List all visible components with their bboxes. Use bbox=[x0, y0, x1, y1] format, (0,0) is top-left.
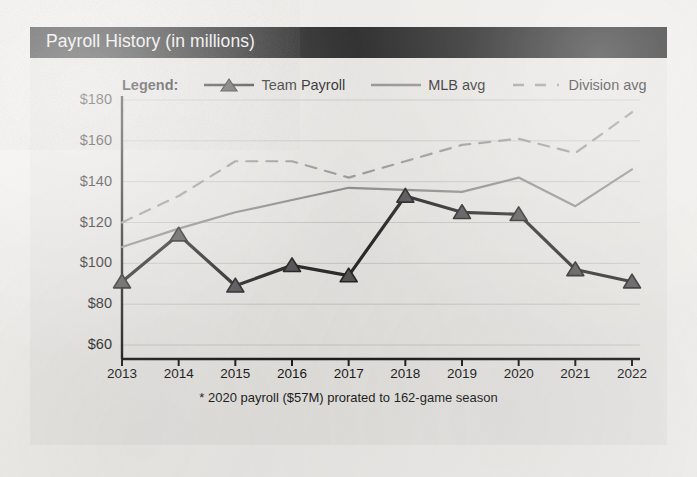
legend-item-label: MLB avg bbox=[428, 77, 485, 93]
x-axis-tick-label: 2020 bbox=[494, 366, 544, 381]
chart-plot-area: $180$160$140$120$100$80$6020132014201520… bbox=[0, 0, 697, 477]
legend-item-label: Division avg bbox=[568, 77, 646, 93]
x-axis-tick-label: 2014 bbox=[154, 366, 204, 381]
chart-legend: Legend: Team Payroll MLB avg Division av… bbox=[122, 74, 632, 96]
legend-item-team-payroll: Team Payroll bbox=[204, 77, 345, 93]
x-axis-tick-label: 2013 bbox=[97, 366, 147, 381]
x-axis-tick-label: 2021 bbox=[550, 366, 600, 381]
y-axis-tick-label: $180 bbox=[56, 91, 112, 107]
y-axis-tick-label: $60 bbox=[56, 336, 112, 352]
x-axis-tick-label: 2022 bbox=[607, 366, 657, 381]
payroll-history-line-chart bbox=[0, 0, 697, 477]
y-axis-tick-label: $140 bbox=[56, 173, 112, 189]
x-axis-tick-label: 2018 bbox=[380, 366, 430, 381]
y-axis-tick-label: $120 bbox=[56, 214, 112, 230]
x-axis-tick-label: 2015 bbox=[210, 366, 260, 381]
x-axis-tick-label: 2016 bbox=[267, 366, 317, 381]
line-swatch-icon bbox=[371, 77, 421, 93]
dashed-line-icon bbox=[511, 77, 561, 93]
y-axis-tick-label: $160 bbox=[56, 132, 112, 148]
legend-item-mlb-avg: MLB avg bbox=[371, 77, 485, 93]
legend-item-division-avg: Division avg bbox=[511, 77, 646, 93]
legend-label: Legend: bbox=[122, 77, 178, 93]
triangle-marker-icon bbox=[204, 77, 254, 93]
y-axis-tick-label: $80 bbox=[56, 295, 112, 311]
y-axis-tick-label: $100 bbox=[56, 254, 112, 270]
x-axis-tick-label: 2017 bbox=[324, 366, 374, 381]
chart-footnote: * 2020 payroll ($57M) prorated to 162-ga… bbox=[0, 390, 697, 405]
x-axis-tick-label: 2019 bbox=[437, 366, 487, 381]
legend-item-label: Team Payroll bbox=[261, 77, 345, 93]
